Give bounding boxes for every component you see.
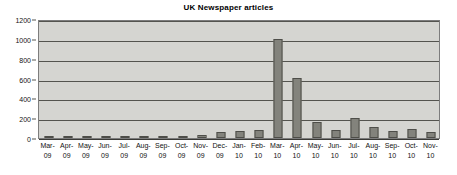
y-axis: 020040060080010001200 <box>0 20 36 139</box>
x-axis-tick-label: Jul-10 <box>344 141 363 161</box>
bar-slot <box>269 21 288 138</box>
bar[interactable] <box>63 136 72 138</box>
bar-slot <box>384 21 403 138</box>
bar-slot <box>192 21 211 138</box>
x-axis-label-year: 10 <box>344 151 363 161</box>
x-axis-label-month: Oct- <box>402 141 421 151</box>
x-axis-label-month: Mar- <box>268 141 287 151</box>
x-axis-tick-label: Feb-10 <box>249 141 268 161</box>
x-axis-label-year: 10 <box>402 151 421 161</box>
x-axis-tick-label: Jun-10 <box>325 141 344 161</box>
bar[interactable] <box>101 136 110 138</box>
bar[interactable] <box>369 127 378 138</box>
x-axis-label-year: 09 <box>191 151 210 161</box>
bar[interactable] <box>350 118 359 138</box>
x-axis-label-month: Jul- <box>115 141 134 151</box>
bar-slot <box>230 21 249 138</box>
bar[interactable] <box>197 135 206 138</box>
y-axis-tick-mark <box>32 39 36 40</box>
x-axis-tick-label: Oct-09 <box>172 141 191 161</box>
x-axis-label-month: Nov- <box>421 141 440 151</box>
x-axis-tick-label: Nov-10 <box>421 141 440 161</box>
x-axis-label-month: Jan- <box>229 141 248 151</box>
bar[interactable] <box>331 130 340 138</box>
y-axis-tick-label: 0 <box>27 136 31 143</box>
x-axis-tick-label: Sep-10 <box>383 141 402 161</box>
y-axis-tick-label: 600 <box>19 76 31 83</box>
bar-slot <box>77 21 96 138</box>
x-axis-label-month: Jun- <box>95 141 114 151</box>
y-axis-tick-label: 1200 <box>15 17 31 24</box>
bar-slot <box>135 21 154 138</box>
bar-series <box>39 21 439 138</box>
bar-slot <box>326 21 345 138</box>
bar-slot <box>307 21 326 138</box>
x-axis-label-month: Aug- <box>134 141 153 151</box>
bar[interactable] <box>178 136 187 138</box>
bar-slot <box>345 21 364 138</box>
x-axis-label-year: 09 <box>210 151 229 161</box>
bar[interactable] <box>159 136 168 138</box>
bar[interactable] <box>293 78 302 138</box>
bar[interactable] <box>408 129 417 138</box>
x-axis-label-month: Jun- <box>325 141 344 151</box>
plot-area <box>38 20 440 139</box>
bar[interactable] <box>235 131 244 138</box>
bar-slot <box>364 21 383 138</box>
bar-slot <box>250 21 269 138</box>
bar[interactable] <box>44 136 53 138</box>
bar[interactable] <box>427 132 436 138</box>
bar-slot <box>39 21 58 138</box>
bar-slot <box>211 21 230 138</box>
bar-slot <box>58 21 77 138</box>
chart-container: UK Newspaper articles 020040060080010001… <box>0 0 457 175</box>
bar-slot <box>116 21 135 138</box>
x-axis-label-year: 10 <box>383 151 402 161</box>
x-axis-label-year: 10 <box>268 151 287 161</box>
bar[interactable] <box>121 136 130 138</box>
gridline <box>39 139 439 140</box>
x-axis-label-year: 09 <box>57 151 76 161</box>
bar[interactable] <box>274 39 283 138</box>
x-axis-tick-label: Mar-10 <box>268 141 287 161</box>
x-axis-tick-label: Sep-09 <box>153 141 172 161</box>
x-axis-label-year: 10 <box>287 151 306 161</box>
y-axis-tick-mark <box>32 20 36 21</box>
x-axis-label-month: Aug- <box>363 141 382 151</box>
y-axis-tick-label: 400 <box>19 96 31 103</box>
x-axis-label-year: 10 <box>325 151 344 161</box>
x-axis-label-year: 09 <box>115 151 134 161</box>
bar[interactable] <box>140 136 149 138</box>
bar[interactable] <box>216 132 225 138</box>
x-axis-tick-label: May-10 <box>306 141 325 161</box>
x-axis-label-year: 09 <box>76 151 95 161</box>
bar-slot <box>403 21 422 138</box>
x-axis-tick-label: Jun-09 <box>95 141 114 161</box>
x-axis-label-year: 09 <box>153 151 172 161</box>
bar-slot <box>154 21 173 138</box>
bar[interactable] <box>255 130 264 138</box>
x-axis-tick-label: Aug-09 <box>134 141 153 161</box>
bar[interactable] <box>389 131 398 138</box>
x-axis-label-month: Feb- <box>249 141 268 151</box>
bar[interactable] <box>82 136 91 138</box>
bar-slot <box>96 21 115 138</box>
x-axis-label-year: 10 <box>421 151 440 161</box>
x-axis-label-month: Sep- <box>153 141 172 151</box>
chart-title: UK Newspaper articles <box>0 3 457 12</box>
bar[interactable] <box>312 122 321 138</box>
x-axis-label-month: May- <box>306 141 325 151</box>
x-axis-label-year: 10 <box>249 151 268 161</box>
x-axis-tick-label: May-09 <box>76 141 95 161</box>
x-axis-tick-label: Jul-09 <box>115 141 134 161</box>
x-axis-tick-label: Jan-10 <box>229 141 248 161</box>
x-axis-label-month: Dec- <box>210 141 229 151</box>
x-axis-label-month: Jul- <box>344 141 363 151</box>
x-axis-label-month: Sep- <box>383 141 402 151</box>
x-axis-label-month: Oct- <box>172 141 191 151</box>
x-axis: Mar-09Apr-09May-09Jun-09Jul-09Aug-09Sep-… <box>38 141 440 173</box>
x-axis-label-month: Apr- <box>57 141 76 151</box>
x-axis-tick-label: Nov-09 <box>191 141 210 161</box>
x-axis-tick-label: Apr-09 <box>57 141 76 161</box>
x-axis-tick-label: Apr-10 <box>287 141 306 161</box>
